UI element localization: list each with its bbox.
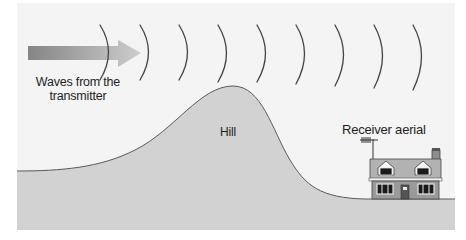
hill-label: Hill [220, 125, 236, 139]
waves-label-line1: Waves from the [24, 75, 132, 89]
radio-wave-diagram [0, 0, 466, 240]
waves-label-line2: transmitter [24, 89, 132, 103]
receiver-aerial-label: Receiver aerial [342, 123, 426, 137]
waves-label: Waves from the transmitter [24, 75, 132, 103]
